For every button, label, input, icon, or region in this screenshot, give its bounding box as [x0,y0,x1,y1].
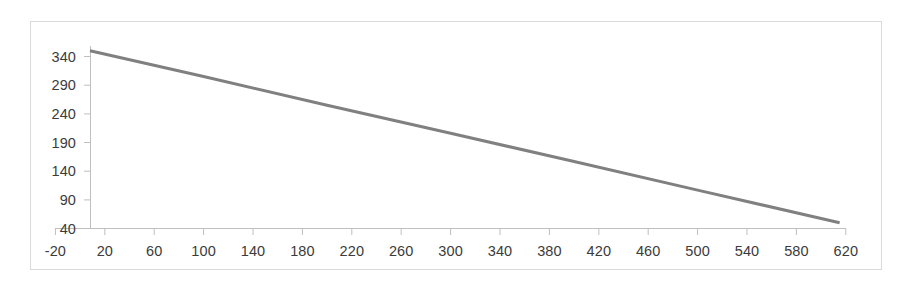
x-axis-tick-label: 100 [191,243,216,259]
x-axis-tick-label: 460 [636,243,661,259]
x-axis-tick-label: 340 [488,243,513,259]
x-axis-tick-label: 540 [735,243,760,259]
x-axis-tick-label: 500 [685,243,710,259]
y-axis-tick-label: 40 [30,221,76,237]
x-axis-tick-label: 220 [340,243,365,259]
x-axis-tick-label: 260 [389,243,414,259]
chart-area-frame [30,21,882,270]
x-axis-tick-label: 580 [784,243,809,259]
chart-root: 340 290 240 190 140 90 40 -20 20 60 100 … [0,0,917,289]
y-axis-tick-label: 240 [30,106,76,122]
x-axis-tick-label: 180 [290,243,315,259]
y-axis-tick-label: 140 [30,163,76,179]
y-axis-tick-label: 190 [30,135,76,151]
x-axis-tick-label: 380 [537,243,562,259]
y-axis-tick-label: 340 [30,49,76,65]
x-axis-tick-label: 420 [587,243,612,259]
y-axis-tick-label: 90 [30,192,76,208]
y-axis-tick-label: 290 [30,77,76,93]
x-axis-tick-label: -20 [45,243,66,259]
x-axis-tick-label: 300 [438,243,463,259]
x-axis-tick-label: 60 [146,243,162,259]
x-axis-tick-label: 20 [97,243,113,259]
x-axis-tick-label: 620 [834,243,859,259]
x-axis-tick-label: 140 [241,243,266,259]
